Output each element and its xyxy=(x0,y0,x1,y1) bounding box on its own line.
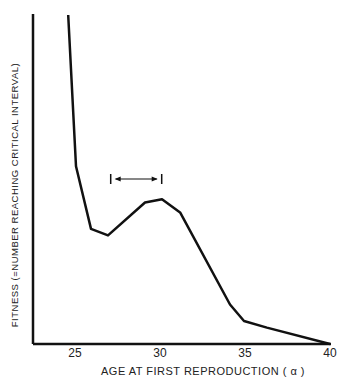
y-axis-label: FITNESS (=NUMBER REACHING CRITICAL INTER… xyxy=(9,63,20,327)
interval-arrow xyxy=(111,174,162,184)
fitness-curve xyxy=(68,15,330,344)
x-tick-25: 25 xyxy=(68,346,81,360)
x-axis-label: AGE AT FIRST REPRODUCTION ( α ) xyxy=(101,365,305,377)
x-tick-30: 30 xyxy=(153,346,166,360)
x-tick-35: 35 xyxy=(238,346,251,360)
chart xyxy=(0,0,348,386)
x-tick-40: 40 xyxy=(323,346,336,360)
